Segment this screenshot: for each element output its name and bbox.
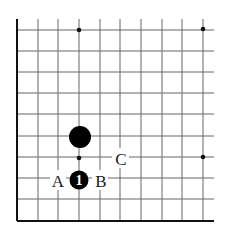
move-number: 1	[76, 173, 83, 188]
grid-lines	[17, 19, 214, 221]
star-point-icon	[77, 156, 82, 161]
svg-text:C: C	[115, 150, 126, 169]
svg-text:B: B	[95, 172, 106, 191]
star-point-icon	[201, 155, 206, 160]
marker-c: C	[112, 148, 129, 169]
board-border	[17, 19, 214, 221]
svg-text:A: A	[52, 172, 65, 191]
go-board: A B C 1	[0, 0, 228, 237]
marker-a: A	[50, 170, 66, 191]
marker-b: B	[92, 170, 108, 191]
star-point-icon	[201, 27, 206, 32]
star-point-icon	[77, 28, 82, 33]
black-stone	[69, 126, 91, 148]
